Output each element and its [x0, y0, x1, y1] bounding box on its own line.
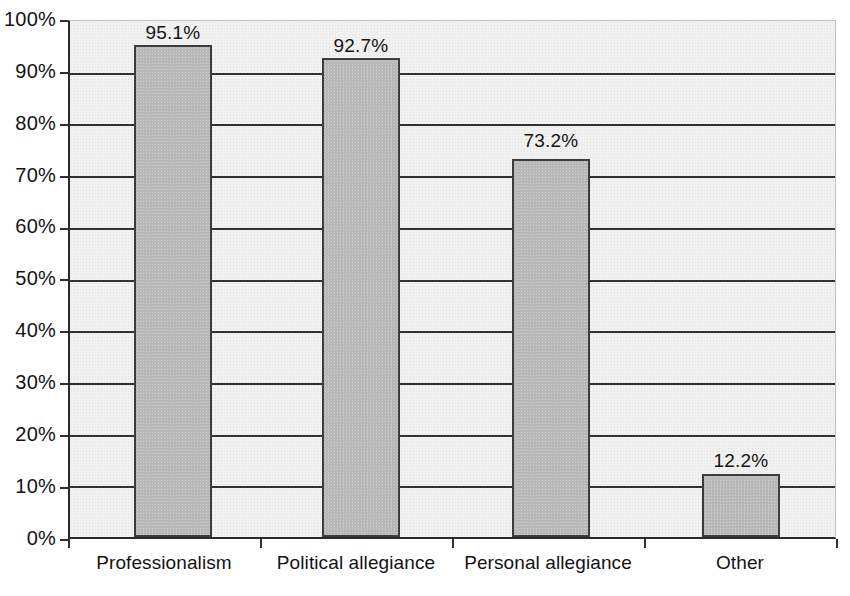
y-tick-label-100: 100%	[0, 8, 56, 31]
y-tick-mark-20	[60, 435, 68, 437]
x-tick-mark-0	[68, 539, 70, 548]
x-tick-mark-2	[452, 539, 454, 548]
y-tick-mark-40	[60, 331, 68, 333]
y-tick-label-40: 40%	[0, 319, 56, 342]
bar-political-allegiance	[322, 58, 400, 537]
y-tick-label-10: 10%	[0, 475, 56, 498]
y-tick-label-20: 20%	[0, 423, 56, 446]
x-category-label-political-allegiance: Political allegiance	[260, 552, 452, 574]
bar-chart: 100% 90% 80% 70% 60% 50% 40% 30% 20% 10%…	[0, 0, 850, 596]
y-tick-mark-100	[60, 20, 68, 22]
y-tick-mark-0	[60, 539, 68, 541]
x-category-label-other: Other	[644, 552, 836, 574]
y-tick-label-0: 0%	[0, 527, 56, 550]
y-tick-mark-10	[60, 487, 68, 489]
x-tick-mark-1	[260, 539, 262, 548]
y-tick-label-70: 70%	[0, 164, 56, 187]
y-tick-mark-60	[60, 228, 68, 230]
y-tick-label-80: 80%	[0, 112, 56, 135]
x-category-label-personal-allegiance: Personal allegiance	[452, 552, 644, 574]
y-tick-mark-50	[60, 279, 68, 281]
x-tick-mark-3	[644, 539, 646, 548]
y-tick-label-50: 50%	[0, 267, 56, 290]
bar-value-label-professionalism: 95.1%	[103, 22, 243, 44]
y-tick-label-30: 30%	[0, 371, 56, 394]
bar-value-label-political-allegiance: 92.7%	[291, 35, 431, 57]
bar-value-label-other: 12.2%	[671, 450, 811, 472]
bar-personal-allegiance	[512, 159, 590, 537]
y-tick-mark-70	[60, 176, 68, 178]
bar-other	[702, 474, 780, 537]
bar-value-label-personal-allegiance: 73.2%	[481, 130, 621, 152]
y-tick-mark-80	[60, 124, 68, 126]
bar-professionalism	[134, 45, 212, 537]
x-category-label-professionalism: Professionalism	[68, 552, 260, 574]
y-tick-label-60: 60%	[0, 215, 56, 238]
y-tick-mark-30	[60, 383, 68, 385]
y-tick-mark-90	[60, 72, 68, 74]
y-tick-label-90: 90%	[0, 60, 56, 83]
x-tick-mark-4	[836, 539, 838, 548]
